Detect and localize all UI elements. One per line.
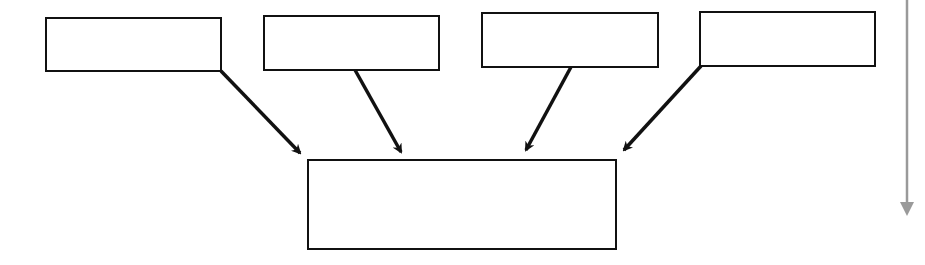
target-label bbox=[308, 160, 616, 249]
source-label-1 bbox=[46, 18, 221, 71]
source-label-3 bbox=[482, 13, 658, 67]
source-label-2 bbox=[264, 16, 439, 70]
source-label-4 bbox=[700, 12, 875, 66]
arrow-icon bbox=[221, 66, 701, 153]
